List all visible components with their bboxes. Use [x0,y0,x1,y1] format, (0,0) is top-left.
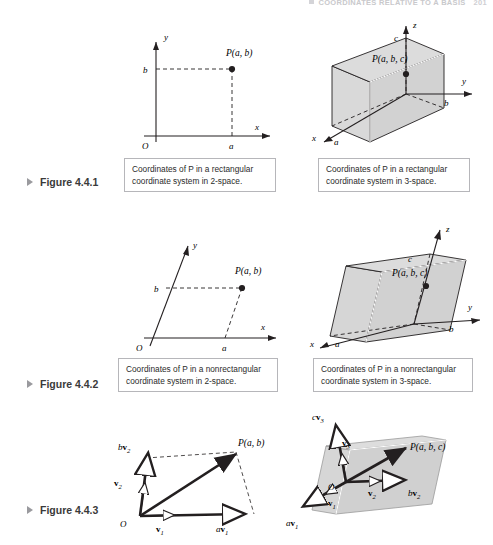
figure-4-4-2-panel-3d: z y x c b a P(a, b, c) [308,216,488,356]
tick-label-a: a [334,137,339,147]
label-v2: v2 [114,478,123,490]
figure-label-text: Figure 4.4.2 [40,378,98,390]
triangle-bullet-icon [27,506,33,514]
label-cv3: cv3 [312,412,325,424]
caption-line-1: Coordinates of P in a rectangular [326,163,463,175]
figure-4-4-2-panel-2d: y x b a O P(a, b) [130,230,295,355]
running-head-title: COORDINATES RELATIVE TO A BASIS [318,0,465,7]
figure-4-4-1-panel-3d: z y x c b a P(a, b, c) [310,14,485,154]
caption-4-4-1-2space: Coordinates of P in a rectangular coordi… [124,158,276,192]
triangle-bullet-icon [27,380,33,388]
caption-line-1: Coordinates of P in a nonrectangular [321,363,466,375]
caption-line-2: coordinate system in 3-space. [321,375,466,387]
tick-label-b: b [143,65,148,75]
caption-line-2: coordinate system in 2-space. [132,175,269,187]
caption-4-4-1-3space: Coordinates of P in a rectangular coordi… [318,158,470,192]
caption-line-1: Coordinates of P in a nonrectangular [126,363,271,375]
caption-line-2: coordinate system in 2-space. [126,375,271,387]
point-label-P: P(a, b, c) [391,268,427,279]
label-v1: v1 [156,524,164,536]
tick-label-c: c [408,254,412,264]
tick-label-a: a [335,339,340,349]
figure-4-4-3-panel-3d: O cv3 v3 v2 bv2 v1 av1 P(a, b, c) [284,406,484,538]
label-v3: v3 [342,438,351,450]
point-label-P: P(a, b, c) [371,54,407,65]
textbook-figure-page: COORDINATES RELATIVE TO A BASIS201 Figur… [0,0,493,545]
caption-4-4-2-2space: Coordinates of P in a nonrectangular coo… [118,358,278,392]
diagram-3d-nonrectangular: z y x c b a P(a, b, c) [308,216,488,356]
origin-label: O [328,482,335,492]
label-av1: av1 [286,518,298,530]
tick-label-a: a [229,141,234,151]
origin-label: O [136,343,143,353]
label-av1: av1 [216,524,228,536]
origin-label: O [142,141,149,151]
point-label-P: P(a, b) [225,48,252,59]
diagram-3d-basis-vectors: O cv3 v3 v2 bv2 v1 av1 P(a, b, c) [284,406,484,538]
axis-label-y: y [163,32,168,42]
point-label-P: P(a, b) [237,438,264,449]
figure-label-4-4-1: Figure 4.4.1 [27,176,98,188]
tick-label-b: b [154,284,159,294]
label-bv2: bv2 [118,442,131,454]
tick-label-c: c [394,33,398,43]
axis-label-y: y [461,76,466,86]
origin-label: O [120,519,127,529]
diagram-3d-rectangular: z y x c b a P(a, b, c) [310,14,485,154]
axis-label-x: x [260,322,265,332]
caption-line-2: coordinate system in 3-space. [326,175,463,187]
axis-label-x: x [254,122,259,132]
figure-4-4-3-panel-2d: O v1 av1 v2 bv2 P(a, b) [112,428,272,536]
diagram-2d-nonrectangular: y x b a O P(a, b) [130,230,295,355]
axis-label-y: y [192,240,197,250]
caption-line-1: Coordinates of P in a rectangular [132,163,269,175]
axis-label-y: y [467,302,472,312]
triangle-bullet-icon [27,178,33,186]
diagram-2d-rectangular: y x b a O P(a, b) [122,18,292,153]
axis-label-z: z [412,20,417,30]
tick-label-b: b [444,98,449,108]
figure-label-text: Figure 4.4.1 [40,176,98,188]
axis-label-x: x [309,339,314,349]
figure-4-4-1-panel-2d: y x b a O P(a, b) [122,18,292,153]
tick-label-b: b [449,324,454,334]
page-number: 201 [474,0,487,7]
axis-label-x: x [311,133,316,143]
figure-label-4-4-3: Figure 4.4.3 [27,504,98,516]
diagram-2d-basis-vectors: O v1 av1 v2 bv2 P(a, b) [112,428,272,536]
axis-label-z: z [445,224,450,234]
point-label-P: P(a, b) [234,266,261,277]
tick-label-a: a [222,343,227,353]
figure-label-text: Figure 4.4.3 [40,504,98,516]
figure-label-4-4-2: Figure 4.4.2 [27,378,98,390]
running-head-square-icon [309,0,314,4]
point-label-P: P(a, b, c) [409,442,445,453]
running-head: COORDINATES RELATIVE TO A BASIS201 [309,0,487,7]
caption-4-4-2-3space: Coordinates of P in a nonrectangular coo… [313,358,473,392]
